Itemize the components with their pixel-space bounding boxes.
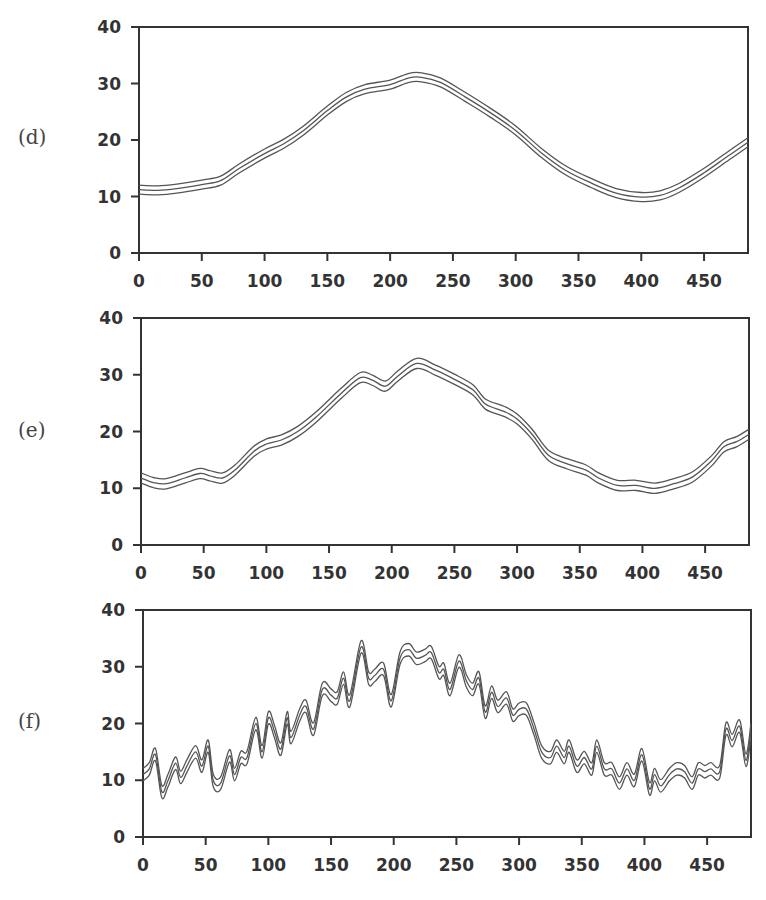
y-tick-label: 30 <box>99 365 123 385</box>
x-tick-label: 350 <box>561 271 597 291</box>
y-tick-label: 0 <box>113 827 125 847</box>
plot-frame <box>141 318 749 545</box>
y-tick-label: 10 <box>99 478 123 498</box>
x-tick-label: 150 <box>310 271 346 291</box>
x-tick-label: 200 <box>376 855 412 875</box>
panel-d: (d) 010203040050100150200250300350400450 <box>0 0 766 300</box>
series-line-lower <box>139 81 748 201</box>
x-tick-label: 450 <box>687 563 723 583</box>
x-tick-label: 250 <box>439 855 475 875</box>
panel-label-e: (e) <box>18 418 45 442</box>
series-line-upper <box>143 640 751 786</box>
x-tick-label: 400 <box>625 563 661 583</box>
y-tick-label: 10 <box>101 770 125 790</box>
y-tick-label: 0 <box>111 535 123 555</box>
x-tick-label: 250 <box>437 563 473 583</box>
x-tick-label: 450 <box>686 271 722 291</box>
x-tick-label: 350 <box>562 563 598 583</box>
y-tick-label: 20 <box>101 714 125 734</box>
y-tick-label: 10 <box>97 187 121 207</box>
series-line-center <box>141 363 749 488</box>
y-tick-label: 40 <box>97 17 121 37</box>
x-tick-label: 100 <box>251 855 287 875</box>
plot-frame <box>139 27 748 253</box>
x-tick-label: 200 <box>374 563 410 583</box>
x-tick-label: 0 <box>133 271 145 291</box>
series-line-lower <box>143 653 751 799</box>
x-tick-label: 400 <box>627 855 663 875</box>
x-tick-label: 50 <box>194 855 218 875</box>
x-tick-label: 50 <box>192 563 216 583</box>
panel-label-f: (f) <box>18 709 41 733</box>
chart-d: 010203040050100150200250300350400450 <box>0 0 766 300</box>
x-tick-label: 300 <box>498 271 534 291</box>
y-tick-label: 30 <box>97 74 121 94</box>
x-tick-label: 0 <box>137 855 149 875</box>
x-tick-label: 250 <box>435 271 471 291</box>
plot-frame <box>143 610 751 837</box>
y-tick-label: 40 <box>99 308 123 328</box>
x-tick-label: 350 <box>564 855 600 875</box>
y-tick-label: 40 <box>101 600 125 620</box>
x-tick-label: 200 <box>372 271 408 291</box>
x-tick-label: 300 <box>499 563 535 583</box>
y-tick-label: 20 <box>97 130 121 150</box>
x-tick-label: 450 <box>689 855 725 875</box>
x-tick-label: 150 <box>313 855 349 875</box>
series-line-lower <box>141 368 749 493</box>
y-tick-label: 0 <box>109 243 121 263</box>
x-tick-label: 100 <box>249 563 285 583</box>
x-tick-label: 300 <box>501 855 537 875</box>
x-tick-label: 400 <box>624 271 660 291</box>
y-tick-label: 30 <box>101 657 125 677</box>
x-tick-label: 0 <box>135 563 147 583</box>
x-tick-label: 50 <box>190 271 214 291</box>
y-tick-label: 20 <box>99 422 123 442</box>
series-line-center <box>143 647 751 793</box>
series-line-upper <box>141 358 749 483</box>
x-tick-label: 150 <box>311 563 347 583</box>
x-tick-label: 100 <box>247 271 283 291</box>
